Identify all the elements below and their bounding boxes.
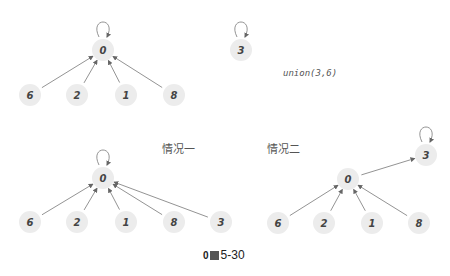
parent-arrow — [354, 190, 366, 211]
node-label: 8 — [416, 218, 423, 229]
parent-arrow — [358, 185, 407, 215]
node-root-0: 0 — [92, 167, 114, 189]
node-label: 2 — [74, 217, 81, 228]
node-2: 2 — [66, 84, 88, 106]
self-loop-arrow — [235, 22, 247, 37]
node-6: 6 — [19, 211, 41, 233]
node-label: 1 — [123, 90, 130, 101]
node-label: 0 — [345, 174, 352, 185]
node-root-3: 3 — [415, 144, 437, 166]
case-one-title: 情况一 — [162, 140, 195, 156]
union-operation-label: union(3,6) — [283, 68, 337, 78]
node-single-3: 3 — [230, 39, 252, 61]
parent-arrow — [113, 184, 162, 214]
parent-arrow — [109, 189, 120, 210]
parent-arrow — [290, 185, 338, 215]
node-label: 1 — [369, 218, 376, 229]
node-label: 8 — [171, 217, 178, 228]
node-8: 8 — [163, 84, 185, 106]
node-label: 2 — [74, 90, 81, 101]
node-1: 1 — [115, 211, 137, 233]
node-1: 1 — [115, 84, 137, 106]
figure-icon — [210, 251, 219, 260]
parent-arrow — [42, 56, 93, 87]
node-2: 2 — [66, 211, 88, 233]
union-find-diagram: 621803621830621803 — [0, 0, 450, 276]
node-label: 3 — [423, 150, 430, 161]
self-loop-arrow — [97, 150, 109, 165]
case-two-title: 情况二 — [267, 140, 300, 156]
node-label: 6 — [27, 90, 34, 101]
node-label: 2 — [321, 218, 328, 229]
parent-arrow — [84, 188, 97, 210]
node-label: 3 — [218, 217, 225, 228]
node-6: 6 — [267, 212, 289, 234]
node-label: 0 — [100, 173, 107, 184]
caption-prefix: 0 — [203, 250, 209, 261]
node-3: 3 — [210, 211, 232, 233]
parent-arrow — [84, 60, 97, 82]
caption-number: 5-30 — [221, 248, 245, 262]
node-6: 6 — [19, 84, 41, 106]
node-0: 0 — [337, 168, 359, 190]
node-1: 1 — [361, 212, 383, 234]
node-label: 1 — [123, 217, 130, 228]
self-loop-arrow — [97, 22, 109, 37]
parent-arrow — [361, 159, 414, 175]
parent-arrow — [42, 184, 93, 215]
figure-caption: 05-30 — [203, 248, 245, 262]
parent-arrow — [108, 61, 119, 83]
node-2: 2 — [313, 212, 335, 234]
node-8: 8 — [408, 212, 430, 234]
node-label: 6 — [275, 218, 282, 229]
node-label: 3 — [238, 45, 245, 56]
parent-arrow — [331, 190, 343, 211]
self-loop-arrow — [420, 127, 432, 142]
node-label: 0 — [100, 45, 107, 56]
parent-arrow — [113, 56, 162, 87]
node-root-0: 0 — [92, 39, 114, 61]
node-8: 8 — [163, 211, 185, 233]
node-label: 6 — [27, 217, 34, 228]
node-label: 8 — [171, 90, 178, 101]
